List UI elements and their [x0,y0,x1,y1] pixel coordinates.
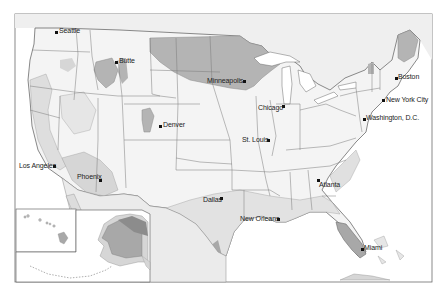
hawaii-inset [16,209,76,252]
city-label: New York City [386,96,428,104]
city-label: Dallas [203,196,222,204]
city-label: Phoenix [77,173,102,181]
city-marker-icon [243,80,246,83]
city-label: Chicago [258,104,283,112]
city-label: Miami [364,244,382,252]
zone-new-england-small [368,62,374,74]
city-label: Los Angeles [19,162,56,170]
city-label: Seattle [59,27,80,35]
city-label: Denver [163,121,185,129]
lake-michigan [282,66,292,104]
city-label: Minneapolis [207,77,243,85]
city-marker-icon [382,99,385,102]
city-label: Atlanta [319,181,340,189]
city-label: Butte [119,57,135,65]
city-marker-icon [159,125,162,128]
city-label: Washington, D.C. [366,114,419,122]
city-marker-icon [55,31,58,34]
city-label: St. Louis [242,136,268,144]
city-label: New Orleans [240,215,279,223]
city-label: Boston [398,73,419,81]
city-marker-icon [115,61,118,64]
